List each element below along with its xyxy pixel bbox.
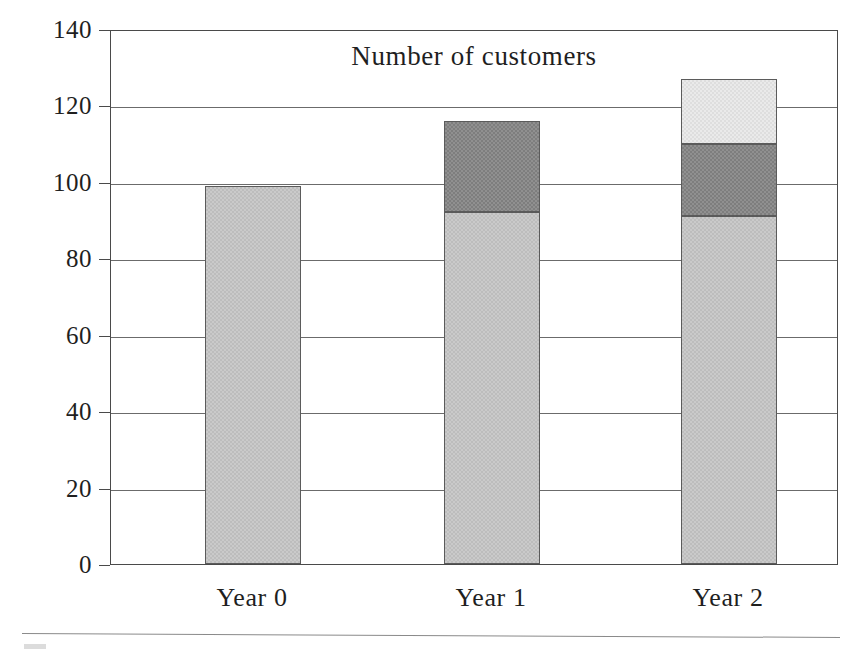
- y-tick-label-120: 120: [0, 93, 92, 118]
- bar-segment: [444, 121, 540, 213]
- y-tick-label-100: 100: [0, 170, 92, 195]
- bar-segment: [205, 186, 301, 564]
- bar-segment: [681, 144, 777, 217]
- y-tick-mark-120: [99, 106, 110, 107]
- bar-segment: [444, 212, 540, 564]
- x-axis-label-0: Year 0: [162, 583, 342, 613]
- bar-stack: [681, 29, 777, 564]
- bar-segment: [681, 216, 777, 564]
- y-tick-mark-0: [99, 565, 110, 566]
- y-tick-label-text: 140: [8, 17, 92, 42]
- y-tick-label-80: 80: [0, 246, 92, 271]
- y-tick-label-text: 20: [8, 476, 92, 501]
- y-tick-label-text: 40: [8, 399, 92, 424]
- y-tick-label-140: 140: [0, 17, 92, 42]
- y-tick-mark-140: [99, 30, 110, 31]
- x-axis-label-2: Year 2: [638, 583, 818, 613]
- y-tick-mark-100: [99, 183, 110, 184]
- y-tick-label-20: 20: [0, 476, 92, 501]
- bar-stack: [205, 29, 301, 564]
- plot-area: [110, 30, 838, 565]
- y-tick-label-0: 0: [0, 552, 92, 577]
- y-tick-label-60: 60: [0, 323, 92, 348]
- y-tick-mark-20: [99, 489, 110, 490]
- chart-title: Number of customers: [110, 40, 838, 72]
- y-tick-label-text: 60: [8, 323, 92, 348]
- chart-figure: 020406080100120140 Number of customers Y…: [0, 0, 863, 656]
- page-artifact-mark: [24, 644, 46, 649]
- y-tick-label-text: 0: [8, 552, 92, 577]
- bar-stack: [444, 29, 540, 564]
- y-tick-mark-60: [99, 336, 110, 337]
- x-axis-label-1: Year 1: [401, 583, 581, 613]
- y-tick-label-text: 100: [8, 170, 92, 195]
- bar-segment: [681, 79, 777, 144]
- y-tick-label-text: 120: [8, 93, 92, 118]
- y-tick-mark-80: [99, 259, 110, 260]
- y-tick-label-text: 80: [8, 246, 92, 271]
- y-tick-label-40: 40: [0, 399, 92, 424]
- y-tick-mark-40: [99, 412, 110, 413]
